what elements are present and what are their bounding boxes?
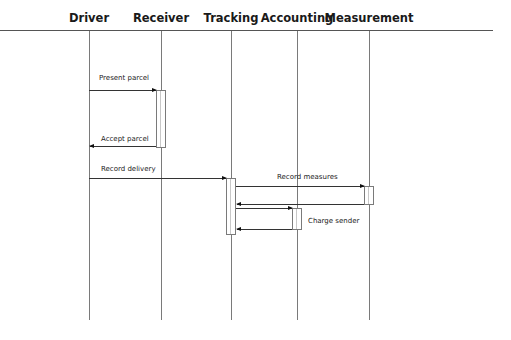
lifeline-tracking	[231, 31, 232, 320]
message-arrow-to-accounting	[236, 208, 292, 209]
actor-accounting: Accounting	[261, 11, 334, 25]
header-divider	[0, 30, 493, 31]
message-label-record-measures: Record measures	[277, 173, 338, 181]
lifeline-driver	[89, 31, 90, 320]
actor-tracking: Tracking	[204, 11, 259, 25]
activation-tracking	[226, 178, 236, 235]
message-arrow-accept-parcel	[90, 146, 156, 147]
lifeline-measurement	[369, 31, 370, 320]
message-arrow-charge-sender	[237, 229, 292, 230]
message-arrow-measurement-return	[237, 204, 364, 205]
actor-receiver: Receiver	[133, 11, 189, 25]
actor-measurement: Measurement	[325, 11, 414, 25]
activation-measurement	[364, 186, 374, 205]
message-label-charge-sender: Charge sender	[308, 217, 359, 225]
message-label-record-delivery: Record delivery	[101, 165, 156, 173]
message-label-accept-parcel: Accept parcel	[101, 135, 149, 143]
actor-driver: Driver	[69, 11, 109, 25]
activation-accounting	[292, 208, 302, 230]
message-arrow-record-delivery	[89, 178, 226, 179]
message-label-present-parcel: Present parcel	[99, 74, 149, 82]
message-arrow-present-parcel	[89, 90, 156, 91]
message-arrow-record-measures	[236, 186, 364, 187]
activation-receiver	[156, 90, 166, 148]
lifeline-receiver	[161, 31, 162, 320]
